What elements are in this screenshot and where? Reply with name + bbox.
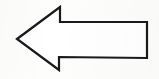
- arrow-left-icon: Left pointing arrow: [0, 0, 159, 79]
- image-canvas: Left pointing arrow: [0, 0, 159, 79]
- arrow-left-outline: [17, 7, 147, 70]
